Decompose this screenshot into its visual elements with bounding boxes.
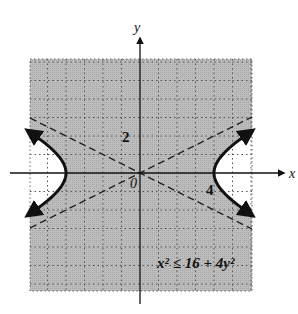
origin-label: 0 bbox=[130, 176, 137, 191]
x-tick-label-4: 4 bbox=[206, 182, 214, 198]
y-tick-label-2: 2 bbox=[122, 129, 130, 145]
hyperbola-inequality-graph: x y 2 4 0 x² ≤ 16 + 4y² bbox=[0, 0, 298, 314]
inequality-label: x² ≤ 16 + 4y² bbox=[156, 255, 235, 271]
x-axis-label: x bbox=[288, 166, 296, 181]
y-axis-label: y bbox=[132, 20, 141, 35]
